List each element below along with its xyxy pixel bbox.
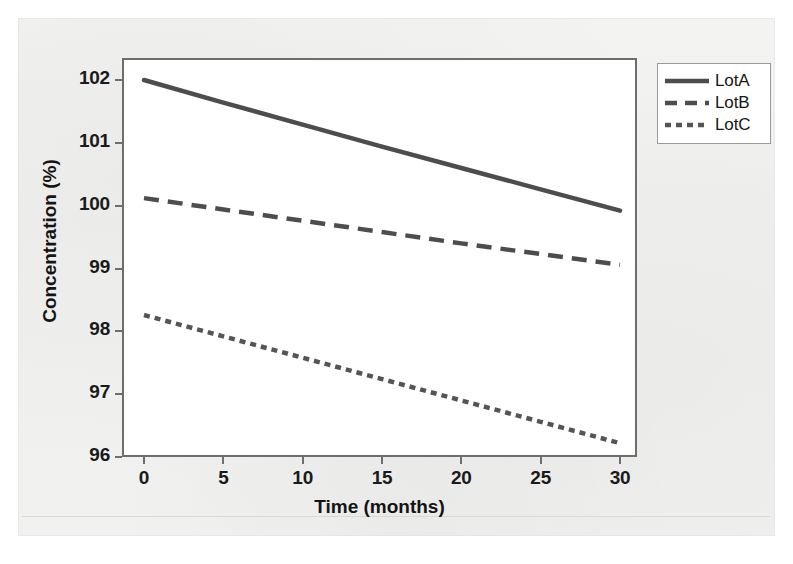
y-tick-mark xyxy=(115,205,122,207)
y-tick-mark xyxy=(115,142,122,144)
legend-label: LotB xyxy=(710,93,750,113)
legend-swatch-solid-icon xyxy=(664,74,710,88)
legend-item-lotc[interactable]: LotC xyxy=(664,114,765,136)
x-tick-label: 20 xyxy=(431,467,491,489)
x-tick-mark xyxy=(143,457,145,464)
x-tick-mark xyxy=(381,457,383,464)
y-tick-label: 98 xyxy=(64,318,110,340)
legend-label: LotA xyxy=(710,71,750,91)
y-tick-mark xyxy=(115,268,122,270)
y-tick-mark xyxy=(115,393,122,395)
x-tick-label: 15 xyxy=(352,467,412,489)
y-tick-label: 101 xyxy=(64,130,110,152)
y-tick-label: 99 xyxy=(64,256,110,278)
x-tick-label: 30 xyxy=(590,467,650,489)
y-tick-label: 102 xyxy=(64,67,110,89)
legend-item-lota[interactable]: LotA xyxy=(664,70,765,92)
legend-item-lotb[interactable]: LotB xyxy=(664,92,765,114)
x-tick-mark xyxy=(302,457,304,464)
y-tick-label: 100 xyxy=(64,193,110,215)
screenshot-page: 96979899100101102 051015202530 Time (mon… xyxy=(0,0,793,564)
y-tick-mark xyxy=(115,456,122,458)
y-tick-label: 96 xyxy=(64,444,110,466)
legend-swatch-dotted-icon xyxy=(664,118,710,132)
x-tick-mark xyxy=(460,457,462,464)
series-line-lotc xyxy=(144,315,620,443)
x-tick-label: 5 xyxy=(193,467,253,489)
legend-swatch-dashed-icon xyxy=(664,96,710,110)
chart-series-layer xyxy=(124,60,635,455)
y-tick-label: 97 xyxy=(64,381,110,403)
x-axis-title: Time (months) xyxy=(122,496,637,518)
y-axis-title: Concentration (%) xyxy=(39,91,61,391)
y-tick-mark xyxy=(115,330,122,332)
line-chart: 96979899100101102 051015202530 Time (mon… xyxy=(0,0,793,564)
legend-label: LotC xyxy=(710,115,751,135)
x-tick-label: 10 xyxy=(273,467,333,489)
x-tick-mark xyxy=(619,457,621,464)
chart-legend[interactable]: LotALotBLotC xyxy=(657,63,771,144)
x-tick-mark xyxy=(222,457,224,464)
x-tick-label: 0 xyxy=(114,467,174,489)
x-tick-mark xyxy=(540,457,542,464)
x-tick-label: 25 xyxy=(511,467,571,489)
y-tick-mark xyxy=(115,79,122,81)
series-line-lota xyxy=(144,80,620,211)
series-line-lotb xyxy=(144,198,620,265)
